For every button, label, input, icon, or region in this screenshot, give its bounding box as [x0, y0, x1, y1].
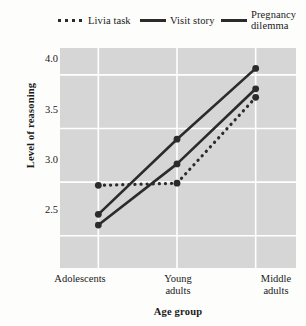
data-point-pregnancy-dilemma-young-adults — [174, 136, 181, 143]
y-tick-label-3-5: 3.5 — [18, 105, 58, 115]
legend-label-livia-task: Livia task — [88, 15, 131, 26]
legend-item-pregnancy-dilemma: Pregnancy dilemma — [221, 9, 306, 31]
data-point-livia-task-middle-adults — [252, 94, 259, 101]
x-axis-title: Age group — [60, 306, 296, 317]
data-point-visit-story-middle-adults — [252, 85, 259, 92]
solid-line-swatch-icon — [221, 15, 247, 25]
plot-svg — [60, 48, 296, 268]
data-point-livia-task-young-adults — [174, 180, 181, 187]
dotted-line-swatch-icon — [58, 16, 84, 26]
legend-label-visit-story: Visit story — [170, 15, 215, 26]
y-tick-label-3-0: 3.0 — [18, 155, 58, 165]
legend-label-pregnancy-dilemma: Pregnancy dilemma — [251, 9, 306, 31]
y-axis-title: Level of reasoning — [25, 51, 36, 201]
solid-line-swatch-icon — [140, 16, 166, 26]
legend-item-livia-task: Livia task — [58, 15, 131, 26]
x-tick-label-middle-adults: Middle adults — [233, 273, 306, 296]
legend-item-visit-story: Visit story — [140, 15, 215, 26]
chart-legend: Livia task Visit story Pregnancy dilemma — [0, 6, 306, 40]
data-point-livia-task-adolescents — [95, 182, 102, 189]
x-tick-label-adolescents: Adolescents — [37, 273, 123, 285]
legend-label-line-1: Pregnancy — [251, 9, 296, 20]
plot-area — [60, 48, 296, 268]
x-tick-label-young-adults: Young adults — [135, 273, 221, 296]
line-chart-figure: Livia task Visit story Pregnancy dilemma… — [0, 0, 306, 326]
y-tick-label-2-5: 2.5 — [18, 205, 58, 215]
gridlines-group — [60, 48, 296, 268]
data-point-visit-story-adolescents — [95, 222, 102, 229]
legend-label-line-2: dilemma — [251, 20, 288, 31]
data-point-visit-story-young-adults — [174, 161, 181, 168]
data-point-pregnancy-dilemma-adolescents — [95, 211, 102, 218]
y-tick-label-4-0: 4.0 — [18, 54, 58, 64]
data-point-pregnancy-dilemma-middle-adults — [252, 65, 259, 72]
